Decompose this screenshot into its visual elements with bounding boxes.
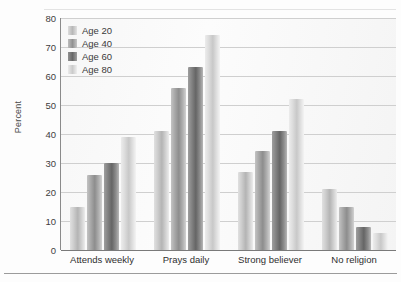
bar-fill [205,35,220,250]
bar[interactable] [255,151,270,250]
x-tick-label: No religion [331,254,376,265]
legend-label: Age 80 [82,64,112,75]
bar[interactable] [121,137,136,250]
bar-fill [104,163,119,250]
bar-group [145,18,229,250]
legend-label: Age 20 [82,25,112,36]
gridline-0 [61,250,396,251]
bar-fill [255,151,270,250]
x-tick-label: Attends weekly [70,254,134,265]
chart-page: Percent 01020304050607080 Age 20Age 40Ag… [0,0,401,282]
bar-fill [154,131,169,250]
bar-fill [70,207,85,251]
bar[interactable] [322,189,337,250]
legend-swatch-icon [68,26,77,35]
bar-fill [121,137,136,250]
legend-swatch-icon [68,52,77,61]
bar[interactable] [272,131,287,250]
y-tick-label-80: 80 [6,13,56,24]
y-tick-label-50: 50 [6,100,56,111]
legend-swatch-icon [68,39,77,48]
bar-fill [356,227,371,250]
bar-group [313,18,397,250]
top-rule [44,9,396,10]
y-tick-label-60: 60 [6,71,56,82]
y-tick-label-20: 20 [6,187,56,198]
bar-fill [87,175,102,250]
bar[interactable] [70,207,85,251]
y-tick-label-0: 0 [6,245,56,256]
bar[interactable] [238,172,253,250]
y-tick-label-30: 30 [6,158,56,169]
legend-label: Age 60 [82,51,112,62]
y-tick-label-70: 70 [6,42,56,53]
bar[interactable] [373,233,388,250]
legend-swatch-icon [68,65,77,74]
bar-fill [188,67,203,250]
y-tick-label-40: 40 [6,129,56,140]
x-axis-tick-labels: Attends weeklyPrays dailyStrong believer… [60,254,396,270]
x-tick-label: Strong believer [238,254,302,265]
legend: Age 20Age 40Age 60Age 80 [68,24,142,76]
legend-label: Age 40 [82,38,112,49]
legend-item[interactable]: Age 60 [68,50,142,63]
y-tick-label-10: 10 [6,216,56,227]
bar[interactable] [104,163,119,250]
y-axis-tick-labels: 01020304050607080 [0,18,56,250]
legend-item[interactable]: Age 80 [68,63,142,76]
legend-item[interactable]: Age 40 [68,37,142,50]
bottom-rule [4,273,397,274]
bar-fill [289,99,304,250]
legend-item[interactable]: Age 20 [68,24,142,37]
bar[interactable] [205,35,220,250]
bar-fill [373,233,388,250]
bar-fill [272,131,287,250]
bar[interactable] [87,175,102,250]
bar[interactable] [171,88,186,250]
bar[interactable] [356,227,371,250]
bar[interactable] [188,67,203,250]
bar-fill [322,189,337,250]
bar[interactable] [154,131,169,250]
bar-fill [171,88,186,250]
bar-fill [238,172,253,250]
bar-fill [339,207,354,251]
bar[interactable] [289,99,304,250]
x-tick-label: Prays daily [163,254,209,265]
bar[interactable] [339,207,354,251]
bar-group [229,18,313,250]
